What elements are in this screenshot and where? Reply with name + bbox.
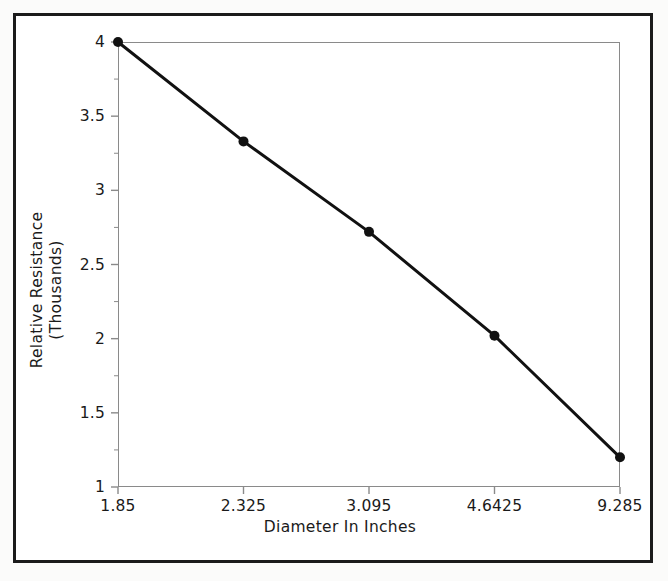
x-tick-label: 2.325 (221, 497, 266, 515)
data-point-marker (239, 136, 249, 146)
y-axis-title-line-1: Relative Resistance (28, 212, 47, 369)
x-tick-label: 1.85 (100, 497, 135, 515)
x-tick-label: 3.095 (346, 497, 391, 515)
data-point-marker (364, 227, 374, 237)
y-axis-title: Relative Resistance (Thousands) (28, 212, 67, 369)
y-axis-title-line-2: (Thousands) (47, 212, 66, 369)
y-tick-label: 3.5 (55, 107, 105, 125)
data-point-marker (490, 331, 500, 341)
y-tick-label: 1 (55, 478, 105, 496)
y-tick-label: 3 (55, 181, 105, 199)
x-tick-label: 9.285 (597, 497, 642, 515)
data-point-marker (113, 37, 123, 47)
y-tick-label: 1.5 (55, 404, 105, 422)
data-series-line (118, 42, 620, 457)
data-point-markers (113, 37, 625, 462)
x-axis-tick-marks (118, 487, 620, 494)
chart-figure: 11.522.533.54 1.852.3253.0954.64259.285 … (0, 0, 668, 581)
y-axis-tick-marks (111, 42, 118, 487)
data-point-marker (615, 452, 625, 462)
x-axis-title: Diameter In Inches (264, 518, 416, 536)
x-tick-label: 4.6425 (467, 497, 522, 515)
y-tick-label: 4 (55, 33, 105, 51)
